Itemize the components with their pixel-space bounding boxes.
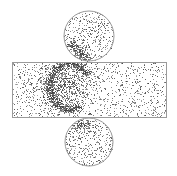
bottom-cap-circle bbox=[65, 118, 113, 166]
cylinder-net-diagram bbox=[0, 0, 177, 176]
top-cap-circle bbox=[64, 11, 114, 61]
lateral-surface-rect bbox=[13, 63, 167, 118]
net-outline bbox=[0, 0, 177, 176]
